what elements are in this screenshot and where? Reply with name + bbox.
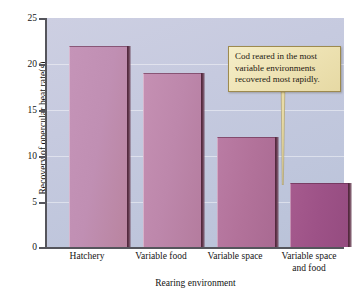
y-tick-label-20: 20	[0, 60, 37, 70]
bar-face	[290, 183, 348, 247]
bar-shadow	[201, 73, 205, 247]
bar-hatchery[interactable]	[69, 46, 127, 247]
x-tick-label-line1: Hatchery	[47, 251, 127, 263]
x-tick-label-variable-space: Variable space	[195, 251, 275, 263]
bar-shadow	[348, 183, 352, 247]
bar-variable-food[interactable]	[143, 73, 201, 247]
y-tick-label-0: 0	[0, 243, 37, 253]
y-axis-line	[45, 18, 47, 248]
bar-face	[143, 73, 201, 247]
bar-face	[217, 137, 275, 247]
x-tick-label-line2: and food	[268, 263, 350, 275]
bar-shadow	[127, 46, 131, 247]
x-axis-line	[45, 247, 344, 249]
callout-pointer-icon	[278, 92, 288, 185]
x-tick-label-variable-food: Variable food	[121, 251, 201, 263]
x-tick-label-variable-space-and-food: Variable space and food	[268, 251, 350, 274]
bar-variable-space[interactable]	[217, 137, 275, 247]
y-tick-label-25: 25	[0, 14, 37, 24]
x-tick-label-line1: Variable space	[195, 251, 275, 263]
x-tick-label-hatchery: Hatchery	[47, 251, 127, 263]
x-axis-title: Rearing environment	[47, 278, 344, 288]
y-tick-label-10: 10	[0, 152, 37, 162]
annotation-callout-text: Cod reared in the most variable environm…	[235, 51, 320, 84]
chart-figure: Recovery of opercular beat rate(s) 25 20…	[0, 0, 359, 298]
bar-variable-space-and-food[interactable]	[290, 183, 348, 247]
y-tick-label-15: 15	[0, 106, 37, 116]
bar-face	[69, 46, 127, 247]
x-tick-label-line1: Variable space	[268, 251, 350, 263]
y-tick-label-5: 5	[0, 198, 37, 208]
x-tick-label-line1: Variable food	[121, 251, 201, 263]
annotation-callout: Cod reared in the most variable environm…	[228, 46, 341, 92]
